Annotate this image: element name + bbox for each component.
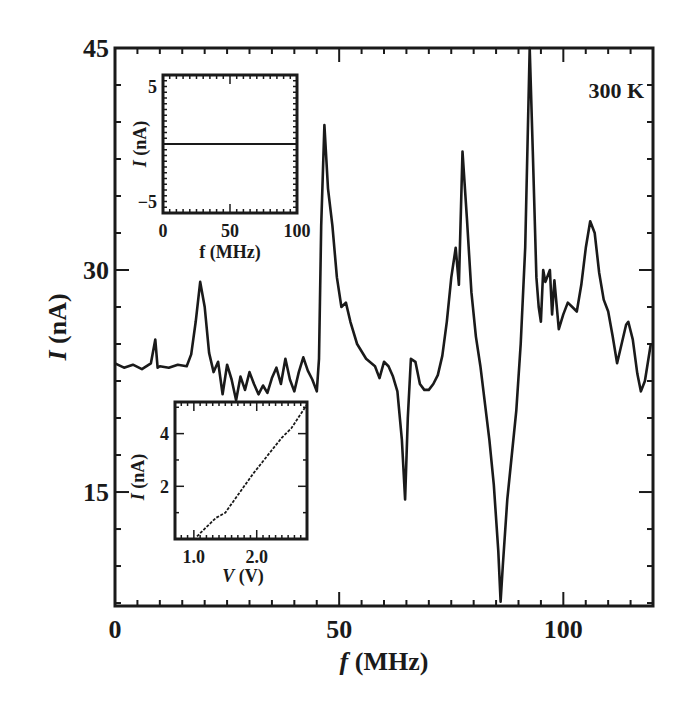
x-tick-label: 0 xyxy=(109,615,122,644)
inset-top-x-title: f (MHz) xyxy=(199,242,260,263)
chart-figure: 050100153045 300 K f (MHz) I (nA) 050100… xyxy=(0,0,688,720)
y-tick-label: 2 xyxy=(160,477,169,497)
y-tick-label: 30 xyxy=(83,256,109,285)
y-tick-label: 4 xyxy=(160,424,169,444)
y-axis-title: I (nA) xyxy=(43,293,72,361)
x-tick-label: 1.0 xyxy=(183,547,206,567)
y-tick-label: 45 xyxy=(83,34,109,63)
x-tick-label: 100 xyxy=(284,221,311,241)
x-axis-title: f (MHz) xyxy=(340,647,429,676)
inset-bottom-y-title: I (nA) xyxy=(128,454,149,502)
x-tick-label: 0 xyxy=(159,221,168,241)
inset-bottom-background xyxy=(175,402,307,539)
x-tick-label: 2.0 xyxy=(245,547,268,567)
x-tick-label: 100 xyxy=(544,615,583,644)
y-axis-title-unit: (nA) xyxy=(43,293,72,350)
inset-bottom-iv-plot: 1.02.024 V (V) I (nA) xyxy=(128,402,307,587)
y-tick-label: 15 xyxy=(83,478,109,507)
inset-top-frequency-plot: 050100−55 f (MHz) I (nA) xyxy=(130,75,311,263)
y-tick-label: 5 xyxy=(148,77,157,97)
x-axis-title-unit: (MHz) xyxy=(348,647,428,676)
inset-top-y-title: I (nA) xyxy=(130,121,151,169)
y-tick-label: −5 xyxy=(138,192,157,212)
x-tick-label: 50 xyxy=(221,221,239,241)
main-axis-tick-labels: 050100153045 xyxy=(83,34,583,644)
x-tick-label: 50 xyxy=(326,615,352,644)
inset-bottom-x-title: V (V) xyxy=(222,566,264,587)
temperature-annotation: 300 K xyxy=(588,78,644,103)
